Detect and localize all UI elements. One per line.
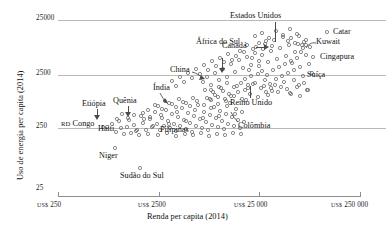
data-point <box>296 42 299 45</box>
data-point <box>213 93 216 96</box>
data-point <box>305 88 308 91</box>
xtick-label-250000: US$ 250 000 <box>331 201 368 209</box>
data-point <box>148 115 151 118</box>
leader-reino-unido <box>250 86 251 98</box>
data-point <box>153 103 156 106</box>
data-point <box>283 62 286 65</box>
annotation-rd-congo-prefix: RD <box>61 120 71 127</box>
annotation-reino-unido: Reino Unido <box>230 99 272 108</box>
data-point <box>206 128 209 131</box>
data-point <box>114 130 117 133</box>
data-point <box>295 85 298 88</box>
data-point <box>200 126 203 129</box>
annotation-quenia: Quênia <box>113 97 137 106</box>
data-point <box>286 71 289 74</box>
data-point <box>203 88 206 91</box>
data-point <box>280 74 283 77</box>
data-point <box>266 93 269 96</box>
data-point <box>115 117 118 120</box>
leader-colombia <box>228 110 242 124</box>
data-point <box>289 36 292 39</box>
data-point <box>193 108 196 111</box>
data-point <box>267 36 270 39</box>
xtick-label-25000: US$ 25 000 <box>234 201 268 209</box>
data-point <box>279 85 282 88</box>
currency-symbol: US$ <box>331 202 342 208</box>
data-point <box>125 125 128 128</box>
data-point <box>281 33 284 36</box>
data-point <box>273 83 276 86</box>
annotation-haiti: Haiti <box>98 125 114 134</box>
data-point <box>191 133 194 136</box>
data-point <box>268 82 271 85</box>
data-point <box>182 80 185 83</box>
annotation-kuwait: Kuwait <box>316 38 340 47</box>
annotation-india: Índia <box>153 84 170 93</box>
leader-africa-do-sul-arrow <box>219 68 226 75</box>
y-axis-title: Uso de energia per capita (2014) <box>16 71 25 180</box>
x-axis-line <box>58 196 361 197</box>
data-point <box>188 104 191 107</box>
data-point <box>137 133 140 136</box>
data-point <box>176 115 179 118</box>
leader-canada-arrow <box>264 44 271 51</box>
data-point <box>288 27 291 30</box>
data-point <box>178 75 181 78</box>
data-point <box>132 113 135 116</box>
ytick-label-250: 250 <box>36 122 47 130</box>
leader-china <box>192 70 206 80</box>
data-point <box>217 78 220 81</box>
data-point <box>174 134 177 137</box>
data-point <box>214 64 217 67</box>
leader-quenia-arrow <box>125 112 132 119</box>
data-point <box>307 62 310 65</box>
data-point <box>201 116 204 119</box>
ytick-label-25: 25 <box>36 184 43 192</box>
data-point <box>299 50 302 53</box>
data-point <box>311 55 314 58</box>
annotation-filipinas: Filipinas <box>160 126 189 135</box>
data-point <box>174 105 177 108</box>
xtick-value: 250 000 <box>344 201 368 209</box>
leader-india <box>158 93 172 105</box>
data-point <box>239 132 242 135</box>
data-point <box>285 87 288 90</box>
data-point <box>304 53 307 56</box>
data-point <box>160 116 163 119</box>
data-point <box>164 108 167 111</box>
data-point <box>129 131 132 134</box>
leader-etiopia-arrow <box>94 115 101 122</box>
data-point <box>192 114 195 117</box>
data-point <box>153 110 156 113</box>
ytick-label-25000: 25000 <box>36 14 54 22</box>
data-point <box>298 65 301 68</box>
data-point <box>220 119 223 122</box>
data-point <box>286 39 289 42</box>
data-point <box>225 75 228 78</box>
data-point <box>223 97 226 100</box>
data-point <box>186 111 189 114</box>
annotation-suica: Suíça <box>307 71 325 80</box>
data-point <box>232 124 235 127</box>
data-point <box>265 73 268 76</box>
data-point <box>222 127 225 130</box>
data-point <box>292 68 295 71</box>
data-point <box>253 34 256 37</box>
data-point <box>215 132 218 135</box>
data-point <box>245 55 248 58</box>
annotation-estados-unidos: Estados Unidos <box>230 12 281 21</box>
data-point <box>263 78 266 81</box>
data-point <box>236 90 239 93</box>
data-point <box>141 111 144 114</box>
data-point <box>151 124 154 127</box>
data-point <box>216 102 219 105</box>
data-point <box>174 84 177 87</box>
annotation-africa-do-sul: África do Sul <box>196 38 240 47</box>
currency-symbol: US$ <box>138 202 149 208</box>
data-point <box>295 56 298 59</box>
annotation-etiopia: Etiópia <box>82 100 106 109</box>
data-point <box>270 89 273 92</box>
xtick-25000 <box>259 192 260 197</box>
data-point <box>271 68 274 71</box>
data-point <box>177 97 180 100</box>
